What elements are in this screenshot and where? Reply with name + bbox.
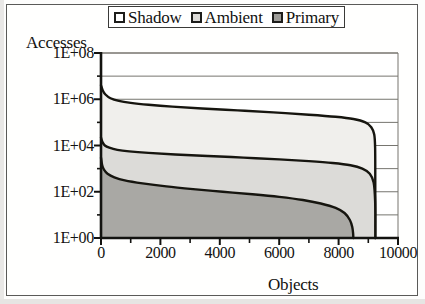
chart-screenshot: ShadowAmbientPrimary Accesses Objects 1E… xyxy=(0,0,425,304)
plot-area xyxy=(0,0,425,304)
